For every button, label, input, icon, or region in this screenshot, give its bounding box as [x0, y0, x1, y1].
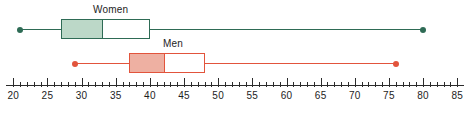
x-axis-tick-minor [327, 82, 328, 87]
x-axis-tick-major [457, 78, 458, 87]
x-axis-tick-minor [293, 82, 294, 87]
x-axis-tick-minor [61, 82, 62, 87]
x-axis-tick-minor [348, 82, 349, 87]
x-axis-tick-minor [246, 82, 247, 87]
x-axis-tick-minor [239, 82, 240, 87]
x-axis-tick-minor [273, 82, 274, 87]
x-axis-tick-label: 65 [315, 90, 327, 101]
x-axis-tick-major [184, 78, 185, 87]
x-axis-tick-minor [27, 82, 28, 87]
x-axis-tick-major [150, 78, 151, 87]
whisker-women-lower [20, 29, 61, 30]
box-women [61, 19, 150, 39]
x-axis-tick-minor [54, 82, 55, 87]
x-axis-tick-minor [396, 82, 397, 87]
x-axis-tick-minor [205, 82, 206, 87]
x-axis-tick-major [389, 78, 390, 87]
x-axis-tick-minor [136, 82, 137, 87]
x-axis-tick-major [252, 78, 253, 87]
x-axis-tick-major [321, 78, 322, 87]
x-axis-tick-label: 70 [349, 90, 361, 101]
x-axis-tick-label: 75 [383, 90, 395, 101]
x-axis-tick-minor [444, 82, 445, 87]
x-axis-tick-label: 45 [178, 90, 190, 101]
median-line-women [102, 19, 103, 39]
box-men-lower-quartile-fill [130, 54, 163, 72]
x-axis-tick-minor [437, 82, 438, 87]
x-axis-tick-minor [314, 82, 315, 87]
series-label-women: Women [93, 4, 128, 15]
boxplot-chart: Women Men 2025303540455055606570758085 [0, 0, 473, 113]
x-axis-tick-minor [129, 82, 130, 87]
x-axis-tick-label: 50 [212, 90, 224, 101]
x-axis-tick-minor [20, 82, 21, 87]
x-axis-tick-label: 25 [42, 90, 54, 101]
x-axis-tick-minor [409, 82, 410, 87]
x-axis-tick-minor [34, 82, 35, 87]
x-axis-tick-minor [143, 82, 144, 87]
x-axis-tick-label: 60 [281, 90, 293, 101]
median-line-men [164, 53, 165, 73]
x-axis-tick-label: 30 [76, 90, 88, 101]
x-axis-tick-minor [68, 82, 69, 87]
x-axis-tick-major [116, 78, 117, 87]
x-axis-tick-minor [300, 82, 301, 87]
x-axis-tick-minor [416, 82, 417, 87]
x-axis-tick-minor [266, 82, 267, 87]
whisker-women-upper [150, 29, 423, 30]
x-axis-tick-minor [232, 82, 233, 87]
x-axis-tick-minor [341, 82, 342, 87]
x-axis-tick-major [423, 78, 424, 87]
x-axis-tick-label: 40 [144, 90, 156, 101]
x-axis-tick-minor [177, 82, 178, 87]
x-axis-tick-minor [191, 82, 192, 87]
x-axis-tick-label: 35 [110, 90, 122, 101]
x-axis-tick-minor [375, 82, 376, 87]
x-axis-tick-minor [198, 82, 199, 87]
x-axis-tick-minor [123, 82, 124, 87]
x-axis-tick-label: 55 [246, 90, 258, 101]
cap-dot-women-min [17, 27, 23, 33]
cap-dot-men-min [72, 61, 78, 67]
x-axis-tick-label: 80 [417, 90, 429, 101]
series-label-men: Men [163, 38, 183, 49]
x-axis-tick-minor [157, 82, 158, 87]
x-axis-tick-minor [95, 82, 96, 87]
box-men [129, 53, 204, 73]
x-axis-tick-label: 20 [7, 90, 19, 101]
x-axis-tick-minor [164, 82, 165, 87]
cap-dot-women-max [420, 27, 426, 33]
x-axis-tick-minor [225, 82, 226, 87]
x-axis-tick-minor [450, 82, 451, 87]
x-axis-tick-major [218, 78, 219, 87]
x-axis-tick-minor [280, 82, 281, 87]
x-axis-tick-minor [403, 82, 404, 87]
x-axis-tick-minor [170, 82, 171, 87]
cap-dot-men-max [393, 61, 399, 67]
x-axis-tick-minor [102, 82, 103, 87]
whisker-men-lower [75, 63, 130, 64]
x-axis-tick-major [13, 78, 14, 87]
x-axis-tick-minor [307, 82, 308, 87]
x-axis-tick-minor [88, 82, 89, 87]
x-axis-tick-minor [41, 82, 42, 87]
x-axis-tick-minor [362, 82, 363, 87]
x-axis-tick-major [355, 78, 356, 87]
x-axis-tick-minor [211, 82, 212, 87]
x-axis-tick-major [287, 78, 288, 87]
whisker-men-upper [205, 63, 396, 64]
x-axis-tick-minor [334, 82, 335, 87]
x-axis-tick-minor [368, 82, 369, 87]
x-axis-tick-minor [259, 82, 260, 87]
x-axis-tick-minor [109, 82, 110, 87]
x-axis-tick-major [47, 78, 48, 87]
box-women-lower-quartile-fill [62, 20, 102, 38]
x-axis-tick-minor [382, 82, 383, 87]
x-axis-tick-minor [75, 82, 76, 87]
x-axis-tick-label: 85 [451, 90, 463, 101]
x-axis-tick-major [82, 78, 83, 87]
x-axis-tick-minor [430, 82, 431, 87]
